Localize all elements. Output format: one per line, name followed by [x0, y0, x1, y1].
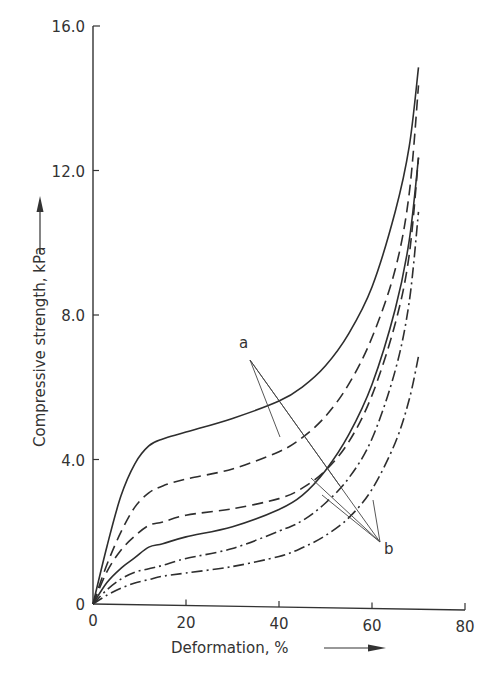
y-ticks: 04.08.012.016.0	[52, 18, 99, 614]
curve-solid-lower	[93, 158, 419, 604]
curve-dashdot-lower	[93, 356, 419, 604]
chart-canvas: 04.08.012.016.0 020406080 Compressive st…	[0, 0, 504, 678]
x-axis-arrow-icon	[324, 645, 386, 652]
x-tick-label: 60	[362, 617, 381, 635]
y-tick-label: 0	[75, 596, 85, 614]
curve-dashed-upper	[93, 85, 419, 604]
axes	[93, 26, 465, 610]
y-tick-label: 16.0	[52, 18, 85, 36]
x-axis-title: Deformation, %	[171, 639, 288, 657]
y-axis-title: Compressive strength, kPa	[31, 247, 49, 448]
x-tick-label: 40	[269, 615, 288, 633]
curves	[93, 67, 419, 604]
annotation-a: a	[239, 334, 340, 486]
x-tick-label: 20	[176, 614, 195, 632]
curve-dashed-lower	[93, 158, 419, 604]
x-tick-label: 80	[455, 618, 474, 636]
curve-solid-upper	[93, 67, 419, 604]
y-tick-label: 12.0	[52, 163, 85, 181]
y-tick-label: 8.0	[61, 307, 85, 325]
curve-dashdot-upper	[93, 212, 419, 604]
y-tick-label: 4.0	[61, 452, 85, 470]
y-axis-arrow-icon	[37, 196, 44, 254]
annotation-a-label: a	[239, 334, 248, 352]
annotation-b: b	[250, 360, 394, 558]
x-tick-label: 0	[88, 612, 98, 630]
annotation-b-label: b	[384, 540, 394, 558]
